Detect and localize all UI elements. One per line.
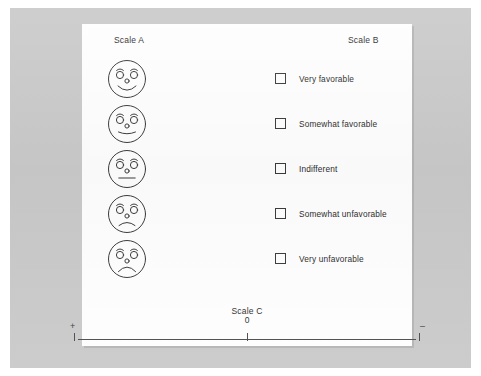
option-label-very-favorable: Very favorable	[299, 74, 354, 84]
face-very-unfavorable-icon	[106, 238, 148, 280]
scale-a-heading: Scale A	[114, 35, 144, 45]
option-label-somewhat-unfavorable: Somewhat unfavorable	[299, 209, 387, 219]
checkbox-somewhat-unfavorable[interactable]	[275, 208, 286, 219]
checkbox-indifferent[interactable]	[275, 163, 286, 174]
scale-c-zero-label: 0	[82, 315, 412, 325]
option-label-indifferent: Indifferent	[299, 164, 337, 174]
scale-c-tick-left	[74, 333, 75, 341]
scale-c-axis-line: + –	[78, 339, 416, 340]
scale-c-plus-sign: +	[70, 322, 75, 331]
face-row-somewhat-unfavorable[interactable]	[106, 191, 166, 236]
option-row-very-favorable[interactable]: Very favorable	[275, 56, 415, 101]
option-row-very-unfavorable[interactable]: Very unfavorable	[275, 236, 415, 281]
scale-c-rating-line[interactable]: 0 + –	[82, 306, 412, 346]
face-row-very-favorable[interactable]	[106, 56, 166, 101]
face-row-somewhat-favorable[interactable]	[106, 101, 166, 146]
face-somewhat-unfavorable-icon	[106, 193, 148, 235]
scale-b-heading: Scale B	[348, 35, 379, 45]
option-row-somewhat-unfavorable[interactable]: Somewhat unfavorable	[275, 191, 415, 236]
face-row-indifferent[interactable]	[106, 146, 166, 191]
option-row-indifferent[interactable]: Indifferent	[275, 146, 415, 191]
scale-b-option-list: Very favorable Somewhat favorable Indiff…	[275, 56, 415, 281]
scale-c-tick-center	[247, 333, 248, 341]
option-label-somewhat-favorable: Somewhat favorable	[299, 119, 377, 129]
scale-c-minus-sign: –	[420, 322, 425, 331]
face-indifferent-icon	[106, 148, 148, 190]
checkbox-somewhat-favorable[interactable]	[275, 118, 286, 129]
face-row-very-unfavorable[interactable]	[106, 236, 166, 281]
scan-background: Scale A Scale B	[10, 8, 471, 368]
option-label-very-unfavorable: Very unfavorable	[299, 254, 364, 264]
scale-c-tick-right	[419, 333, 420, 341]
checkbox-very-favorable[interactable]	[275, 73, 286, 84]
face-somewhat-favorable-icon	[106, 103, 148, 145]
face-very-favorable-icon	[106, 58, 148, 100]
questionnaire-page: Scale A Scale B	[82, 24, 412, 346]
scale-a-face-list	[106, 56, 166, 281]
checkbox-very-unfavorable[interactable]	[275, 253, 286, 264]
option-row-somewhat-favorable[interactable]: Somewhat favorable	[275, 101, 415, 146]
